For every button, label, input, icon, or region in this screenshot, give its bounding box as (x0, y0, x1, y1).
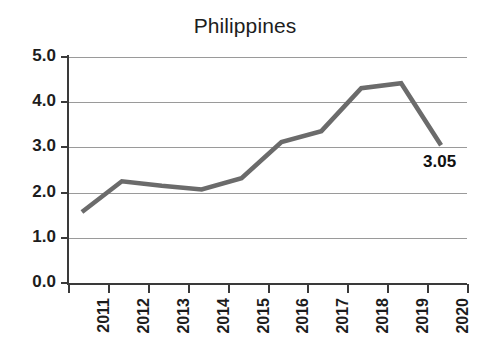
y-tick-2 (61, 192, 69, 194)
x-axis-label-2020: 2020 (454, 298, 472, 334)
gridline-5 (68, 57, 467, 58)
y-axis-label: 1.0 (0, 227, 56, 247)
x-axis-label-2012: 2012 (135, 298, 153, 334)
x-tick (307, 284, 309, 293)
x-axis-label-2011: 2011 (95, 298, 113, 333)
x-tick (387, 284, 389, 293)
line-chart: Philippines 5.04.03.02.01.00.0 201120122… (0, 0, 490, 356)
x-tick (228, 284, 230, 293)
x-axis-label-2017: 2017 (334, 298, 352, 334)
y-tick-4 (61, 101, 69, 103)
x-tick (347, 284, 349, 293)
x-tick (108, 284, 110, 293)
data-point-label: 3.05 (423, 152, 456, 172)
y-axis-label: 3.0 (0, 136, 56, 156)
chart-title: Philippines (0, 14, 490, 38)
x-axis-label-2019: 2019 (414, 298, 432, 334)
plot-area (68, 57, 467, 283)
x-tick (427, 284, 429, 293)
y-axis-label: 4.0 (0, 91, 56, 111)
y-axis-label: 2.0 (0, 182, 56, 202)
y-tick-5 (61, 56, 69, 58)
x-axis-label-2013: 2013 (175, 298, 193, 334)
x-tick (188, 284, 190, 293)
gridline-1 (68, 238, 467, 239)
y-tick-1 (61, 237, 69, 239)
x-axis-label-2016: 2016 (294, 298, 312, 334)
x-tick (148, 284, 150, 293)
y-tick-3 (61, 146, 69, 148)
x-tick (268, 284, 270, 293)
gridline-2 (68, 193, 467, 194)
x-tick (68, 284, 70, 293)
gridline-4 (68, 102, 467, 103)
gridline-3 (68, 147, 467, 148)
y-axis-label: 5.0 (0, 46, 56, 66)
x-tick (467, 284, 469, 293)
x-axis-label-2015: 2015 (255, 298, 273, 334)
y-axis-line (67, 55, 69, 285)
x-axis-label-2018: 2018 (374, 298, 392, 334)
y-axis-label: 0.0 (0, 272, 56, 292)
x-axis-label-2014: 2014 (215, 298, 233, 334)
